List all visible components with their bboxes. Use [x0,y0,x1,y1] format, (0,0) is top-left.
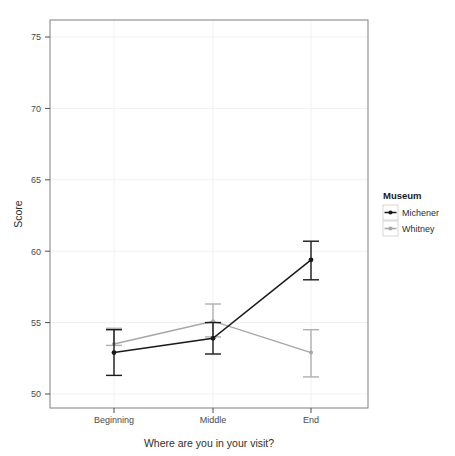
legend-item-michener[interactable]: Michener [383,205,439,220]
legend: Museum Michener Whitney [383,190,439,236]
legend-point-whitney [388,226,392,230]
y-tick-label-75: 75 [31,32,41,42]
x-axis-title: Where are you in your visit? [144,437,274,449]
y-tick-label-65: 65 [31,175,41,185]
y-axis-title: Score [12,200,24,228]
y-tick-label-50: 50 [31,389,41,399]
legend-point-michener [388,210,392,214]
michener-point-beginning [112,350,117,355]
legend-label-michener: Michener [402,208,439,218]
plot-panel-background [50,20,368,408]
legend-title: Museum [383,190,422,201]
x-tick-label-beginning: Beginning [94,415,134,425]
michener-point-end [309,257,314,262]
whitney-point-end [309,351,313,355]
x-tick-label-end: End [303,415,319,425]
chart-container: 50 55 60 65 70 75 Score Beginning Middle… [0,0,455,456]
y-tick-label-70: 70 [31,104,41,114]
michener-point-middle [211,336,216,341]
legend-label-whitney: Whitney [402,224,435,234]
y-axis: 50 55 60 65 70 75 Score [12,32,50,399]
x-axis: Beginning Middle End Where are you in yo… [94,408,319,449]
y-tick-label-55: 55 [31,318,41,328]
legend-item-whitney[interactable]: Whitney [383,221,435,236]
line-chart-figure: 50 55 60 65 70 75 Score Beginning Middle… [0,0,455,456]
x-tick-label-middle: Middle [200,415,227,425]
y-tick-label-60: 60 [31,247,41,257]
